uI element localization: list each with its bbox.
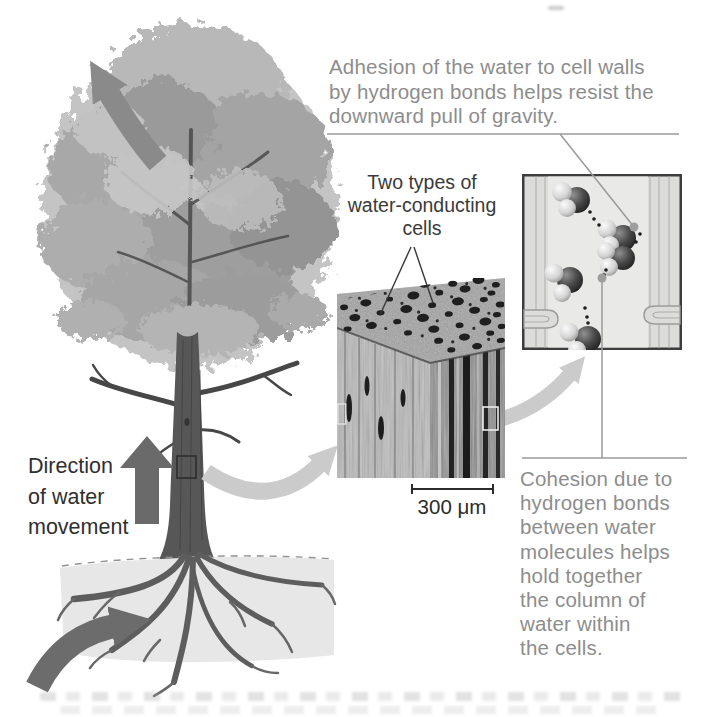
adhesion-caption-line: Adhesion of the water to cell walls (329, 55, 701, 80)
cohesion-caption-line: hold together (520, 564, 712, 588)
page-bleedthrough-texture (40, 692, 690, 701)
cohesion-caption-line: molecules helps (520, 540, 712, 564)
direction-label-line: movement (28, 512, 128, 543)
cohesion-caption-line: between water (520, 515, 712, 539)
direction-label: Direction of water movement (28, 451, 128, 543)
cohesion-caption-line: hydrogen bonds (520, 491, 712, 515)
page-artifact-smudge (548, 6, 564, 10)
figure-water-transport: Adhesion of the water to cell walls by h… (0, 0, 716, 717)
cohesion-caption-line: the cells. (520, 636, 712, 660)
scale-bar-label: 300 μm (406, 495, 498, 519)
adhesion-caption-line: by hydrogen bonds helps resist the (329, 80, 701, 105)
adhesion-caption: Adhesion of the water to cell walls by h… (329, 55, 701, 129)
direction-label-line: Direction (28, 451, 128, 482)
xylem-micrograph (337, 278, 505, 478)
page-bleedthrough-texture (60, 706, 660, 714)
cohesion-caption-line: Cohesion due to (520, 467, 712, 491)
micrograph-to-panel-arrow (498, 372, 572, 420)
cohesion-caption-line: the column of (520, 588, 712, 612)
adhesion-caption-line: downward pull of gravity. (329, 104, 701, 129)
two-types-label-line: cells (336, 217, 508, 240)
two-types-label-line: water-conducting (336, 194, 508, 217)
two-types-label: Two types of water-conducting cells (336, 171, 508, 240)
cohesion-caption-line: water within (520, 612, 712, 636)
trunk-to-micrograph-arrow (206, 462, 322, 491)
two-types-label-line: Two types of (336, 171, 508, 194)
direction-label-line: of water (28, 482, 128, 513)
cohesion-caption: Cohesion due to hydrogen bonds between w… (520, 467, 712, 661)
molecule-panel (522, 174, 682, 350)
